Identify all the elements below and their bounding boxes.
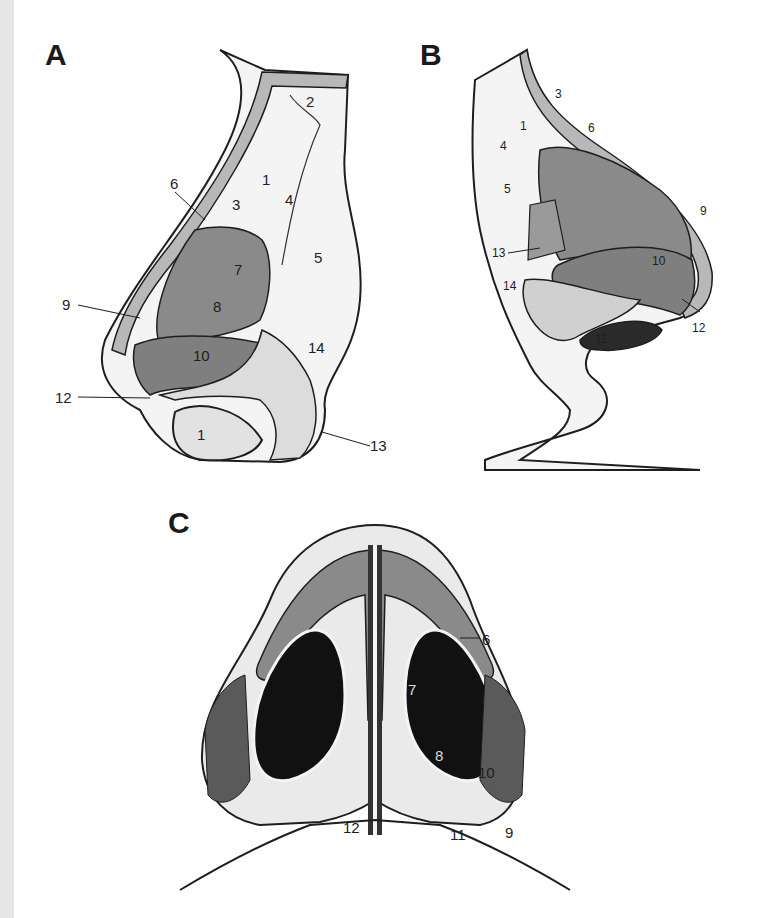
label-b-9: 9 — [700, 205, 707, 217]
label-c-7: 7 — [408, 682, 416, 697]
label-c-6: 6 — [482, 632, 490, 647]
nose-basal-illustration — [150, 480, 600, 900]
label-b-10: 10 — [652, 255, 665, 267]
label-c-10: 10 — [478, 765, 495, 780]
panel-c: C 6 7 8 10 12 11 9 — [150, 480, 600, 900]
nose-oblique-illustration — [400, 0, 765, 480]
label-a-9: 9 — [62, 297, 70, 312]
nose-lateral-illustration — [0, 0, 400, 480]
panel-b: B 3 1 6 4 5 9 13 10 14 11 12 — [400, 0, 765, 480]
label-c-8: 8 — [435, 748, 443, 763]
label-a-6: 6 — [170, 176, 178, 191]
label-a-13: 13 — [370, 438, 387, 453]
label-c-11: 11 — [450, 827, 466, 842]
label-c-9: 9 — [505, 825, 513, 840]
label-a-1: 1 — [262, 172, 270, 187]
label-b-3: 3 — [555, 88, 562, 100]
label-b-14: 14 — [503, 280, 516, 292]
label-c-12: 12 — [343, 820, 360, 835]
label-a-4: 4 — [285, 192, 293, 207]
label-a-8: 8 — [213, 299, 221, 314]
label-b-4: 4 — [500, 140, 507, 152]
label-a-1-nostril: 1 — [197, 427, 205, 442]
label-a-14: 14 — [308, 340, 325, 355]
label-a-10: 10 — [193, 348, 210, 363]
label-b-5: 5 — [504, 183, 511, 195]
label-a-5: 5 — [314, 250, 322, 265]
label-b-12: 12 — [692, 322, 705, 334]
label-b-11: 11 — [595, 333, 607, 345]
panel-a: A 2 1 4 3 6 5 7 8 9 14 10 12 1 13 — [0, 0, 400, 480]
label-b-1: 1 — [520, 120, 527, 132]
label-a-2: 2 — [306, 94, 314, 109]
label-a-3: 3 — [232, 197, 240, 212]
label-b-6: 6 — [588, 122, 595, 134]
label-a-12: 12 — [55, 390, 72, 405]
label-b-13: 13 — [492, 247, 505, 259]
label-a-7: 7 — [234, 262, 242, 277]
